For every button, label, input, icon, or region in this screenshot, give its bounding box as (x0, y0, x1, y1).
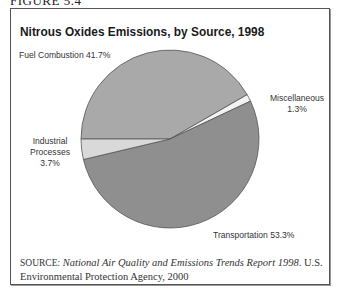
label-industrial-processes: Industrial Processes 3.7% (23, 135, 77, 168)
label-fuel-combustion: Fuel Combustion 41.7% (19, 49, 110, 60)
source-title: National Air Quality and Emissions Trend… (63, 257, 299, 268)
label-industrial-name-1: Industrial (23, 135, 77, 146)
label-transportation: Transportation 53.3% (213, 229, 294, 240)
label-industrial-name-2: Processes (23, 146, 77, 157)
source-note: SOURCE: National Air Quality and Emissio… (20, 256, 325, 283)
source-prefix: SOURCE: (20, 258, 60, 268)
label-miscellaneous: Miscellaneous 1.3% (266, 92, 329, 114)
label-misc-value: 1.3% (266, 103, 329, 114)
label-industrial-value: 3.7% (23, 157, 77, 168)
label-misc-name: Miscellaneous (266, 92, 329, 103)
